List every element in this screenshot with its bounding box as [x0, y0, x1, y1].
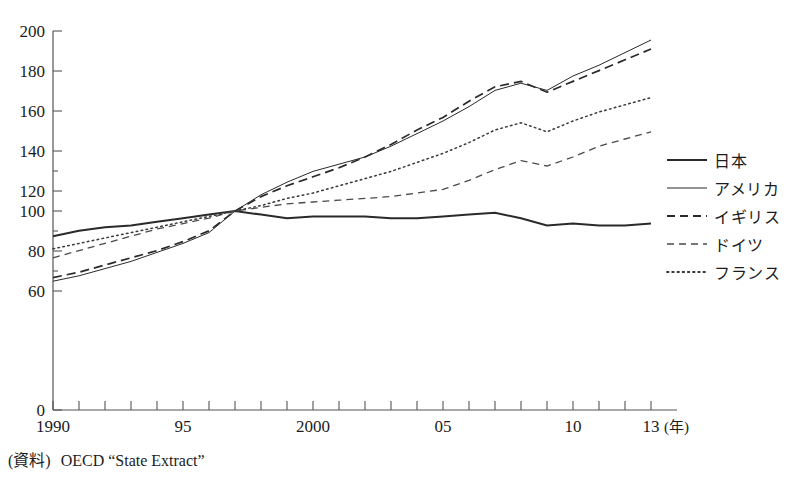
legend-item-uk[interactable]: イギリス [666, 202, 805, 230]
series-lines [53, 40, 651, 281]
legend-item-usa[interactable]: アメリカ [666, 174, 805, 202]
chart-legend: 日本 アメリカ イギリス ドイツ フランス [666, 146, 805, 286]
series-line [53, 49, 651, 278]
source-label: (資料) [8, 452, 51, 469]
svg-text:80: 80 [28, 242, 45, 261]
svg-text:10: 10 [565, 417, 582, 436]
series-line [53, 98, 651, 249]
x-axis [53, 401, 677, 410]
legend-label-japan: 日本 [714, 148, 747, 172]
svg-text:2000: 2000 [296, 417, 330, 436]
legend-item-japan[interactable]: 日本 [666, 146, 805, 174]
series-line [53, 211, 651, 236]
svg-text:05: 05 [435, 417, 452, 436]
legend-label-usa: アメリカ [714, 176, 779, 200]
svg-text:95: 95 [175, 417, 192, 436]
svg-text:140: 140 [20, 142, 46, 161]
svg-text:60: 60 [28, 282, 45, 301]
legend-label-france: フランス [714, 260, 780, 284]
svg-text:160: 160 [20, 102, 46, 121]
legend-swatch-solid-thick [666, 154, 708, 166]
source-note: (資料)OECD “State Extract” [8, 447, 205, 471]
legend-swatch-dotted [666, 266, 708, 278]
chart-root: 20018016014012010080600 1990952000051013… [0, 0, 805, 479]
y-axis [53, 31, 62, 410]
svg-text:180: 180 [20, 62, 46, 81]
legend-label-germany: ドイツ [714, 232, 764, 256]
svg-text:(年): (年) [664, 419, 689, 436]
legend-item-france[interactable]: フランス [666, 258, 805, 286]
svg-text:1990: 1990 [36, 417, 70, 436]
legend-swatch-solid-thin [666, 182, 708, 194]
y-tick-labels: 20018016014012010080600 [20, 22, 46, 420]
legend-swatch-dashed-short [666, 238, 708, 250]
svg-text:13: 13 [643, 417, 660, 436]
source-text: OECD “State Extract” [61, 452, 205, 469]
x-tick-labels: 1990952000051013(年) [36, 417, 689, 436]
legend-item-germany[interactable]: ドイツ [666, 230, 805, 258]
series-line [53, 132, 651, 258]
svg-text:200: 200 [20, 22, 46, 41]
legend-swatch-dashed-long [666, 210, 708, 222]
svg-text:100: 100 [20, 202, 46, 221]
legend-label-uk: イギリス [714, 204, 780, 228]
svg-text:120: 120 [20, 182, 46, 201]
